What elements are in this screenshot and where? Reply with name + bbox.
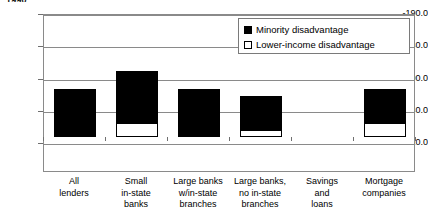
x-axis-tick-mark [105, 137, 106, 141]
x-axis-label-3: Large banks,no in-statebranches [229, 176, 291, 211]
x-axis-label-line: branches [229, 199, 291, 211]
x-axis-label-line: no in-state [229, 188, 291, 200]
x-axis-label-4: Savingsandloans [291, 176, 353, 211]
x-axis-tick-mark [43, 137, 44, 141]
chart-top-title: 1990 [6, 0, 27, 2]
x-axis-label-line: lenders [43, 188, 105, 200]
x-axis-label-line: branches [167, 199, 229, 211]
bar-minority-2 [178, 89, 220, 137]
x-axis-label-line: and [291, 188, 353, 200]
legend-swatch-minority-icon [244, 26, 252, 34]
x-axis-tick-mark [291, 137, 292, 141]
legend-swatch-lower-income-icon [244, 41, 252, 49]
x-axis-label-2: Large banksw/in-statebranches [167, 176, 229, 211]
x-axis-labels: AlllendersSmallin-statebanksLarge banksw… [43, 176, 415, 222]
bar-lower-income-5 [364, 123, 406, 137]
x-axis-tick-mark [167, 137, 168, 141]
x-axis-label-line: banks [105, 199, 167, 211]
x-axis-label-5: Mortgagecompanies [353, 176, 415, 199]
x-axis-label-1: Smallin-statebanks [105, 176, 167, 211]
legend-item-minority: Minority disadvantage [244, 22, 404, 37]
x-axis-label-line: Savings [291, 176, 353, 188]
x-axis-label-line: All [43, 176, 105, 188]
chart-figure: 1990 -190.0-140.0-90.0-40.010.0 Minority… [0, 0, 428, 223]
x-axis-label-line: Small [105, 176, 167, 188]
chart-legend: Minority disadvantage Lower-income disad… [238, 18, 410, 54]
x-axis-label-line: companies [353, 188, 415, 200]
x-axis-label-line: Mortgage [353, 176, 415, 188]
bar-lower-income-3 [240, 130, 282, 137]
x-axis-label-line: Large banks, [229, 176, 291, 188]
x-axis-label-line: Large banks [167, 176, 229, 188]
x-axis-tick-mark [415, 137, 416, 141]
x-axis-tick-mark [353, 137, 354, 141]
x-axis-tick-mark [229, 137, 230, 141]
bar-minority-0 [54, 89, 96, 137]
legend-item-lower-income: Lower-income disadvantage [244, 37, 404, 52]
bar-lower-income-1 [116, 123, 158, 137]
x-axis-label-0: Alllenders [43, 176, 105, 199]
legend-label-minority: Minority disadvantage [256, 25, 348, 35]
legend-label-lower-income: Lower-income disadvantage [256, 40, 375, 50]
x-axis-label-line: loans [291, 199, 353, 211]
x-axis-label-line: w/in-state [167, 188, 229, 200]
x-axis-label-line: in-state [105, 188, 167, 200]
